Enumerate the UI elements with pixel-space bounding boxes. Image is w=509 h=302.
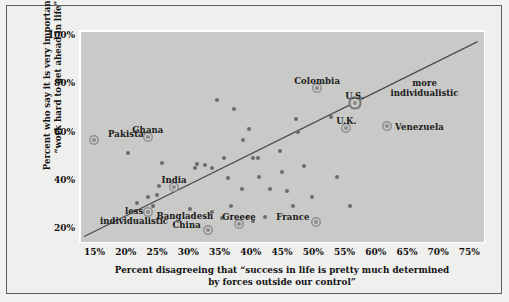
data-point-pakistan (92, 138, 96, 142)
data-point (203, 163, 207, 167)
annotation-line1: less (125, 206, 143, 216)
data-point (232, 107, 236, 111)
point-label-colombia: Colombia (294, 76, 340, 86)
x-tick-label: 30% (178, 247, 199, 257)
data-point (251, 156, 255, 160)
data-point (294, 117, 298, 121)
x-axis-title: Percent disagreeing that “success in lif… (79, 265, 485, 288)
point-label-france: France (276, 212, 309, 222)
data-point-france (314, 220, 318, 224)
chart-frame: Percent who say it is very important to … (6, 5, 502, 294)
data-point (229, 204, 233, 208)
data-point (256, 156, 260, 160)
annotation-line2: individualistic (391, 88, 459, 98)
annotation-more: moreindividualistic (391, 78, 459, 98)
data-point (280, 170, 284, 174)
data-point (310, 195, 314, 199)
data-point-venezuela (385, 124, 389, 128)
data-point (188, 207, 192, 211)
data-point (335, 175, 339, 179)
data-point (296, 130, 300, 134)
x-axis-title-line2: by forces outside our control” (208, 277, 356, 287)
data-point (193, 166, 197, 170)
chart-screenshot: Percent who say it is very important to … (0, 0, 509, 302)
data-point (215, 98, 219, 102)
x-tick-label: 35% (209, 247, 230, 257)
data-point (263, 215, 267, 219)
point-label-ghana: Ghana (132, 125, 163, 135)
point-label-venezuela: Venezuela (395, 122, 444, 132)
point-label-uk: U.K. (336, 116, 356, 126)
data-point-india (172, 185, 176, 189)
data-point-uk (344, 126, 348, 130)
data-point (126, 151, 130, 155)
x-tick-label: 15% (84, 247, 105, 257)
x-tick-label: 45% (271, 247, 292, 257)
data-point (240, 187, 244, 191)
annotation-line2: individualistic (100, 216, 168, 226)
data-point (247, 127, 251, 131)
data-point (222, 156, 226, 160)
annotation-line1: more (412, 78, 437, 88)
data-point-colombia (315, 86, 319, 90)
data-point-greece (237, 222, 241, 226)
annotation-less: lessindividualistic (100, 206, 168, 226)
data-point (135, 201, 139, 205)
data-layer: PakistanGhanaIndiaBangladeshChinaGreeceF… (81, 32, 484, 242)
y-tick-label: 40% (54, 175, 75, 185)
plot-area: PakistanGhanaIndiaBangladeshChinaGreeceF… (79, 30, 485, 243)
x-axis-title-line1: Percent disagreeing that “success in lif… (115, 265, 449, 275)
x-tick-label: 50% (303, 247, 324, 257)
x-tick-label: 70% (428, 247, 449, 257)
y-tick-label: 100% (48, 30, 75, 40)
y-tick-label: 60% (54, 127, 75, 137)
data-point (329, 115, 333, 119)
y-tick-label: 80% (54, 78, 75, 88)
data-point (291, 204, 295, 208)
data-point (278, 149, 282, 153)
x-tick-label: 75% (459, 247, 480, 257)
data-point (146, 195, 150, 199)
x-tick-label: 55% (334, 247, 355, 257)
x-axis-ticks: 15%20%25%30%35%40%45%50%55%60%65%70%75% (79, 247, 485, 261)
data-point (241, 138, 245, 142)
data-point (268, 187, 272, 191)
data-point (155, 193, 159, 197)
x-tick-label: 65% (396, 247, 417, 257)
point-label-greece: Greece (222, 212, 256, 222)
data-point (210, 166, 214, 170)
data-point-china (206, 228, 210, 232)
data-point (285, 189, 289, 193)
y-axis-ticks: 100%80%60%40%20% (37, 30, 75, 243)
data-point (348, 204, 352, 208)
x-tick-label: 40% (240, 247, 261, 257)
x-tick-label: 25% (147, 247, 168, 257)
point-label-china: China (172, 220, 200, 230)
point-label-us: U.S. (345, 91, 364, 101)
y-tick-label: 20% (54, 223, 75, 233)
x-tick-label: 20% (115, 247, 136, 257)
data-point (257, 175, 261, 179)
x-tick-label: 60% (365, 247, 386, 257)
data-point (302, 164, 306, 168)
data-point (160, 161, 164, 165)
data-point-us (353, 101, 357, 105)
point-label-india: India (161, 175, 186, 185)
data-point (226, 176, 230, 180)
